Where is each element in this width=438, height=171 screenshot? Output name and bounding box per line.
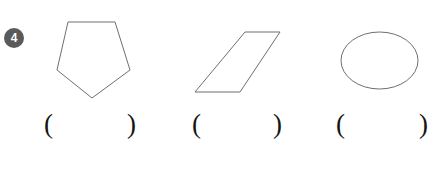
paren-close-1: )	[127, 111, 136, 138]
paren-close-2: )	[273, 111, 282, 138]
ellipse-shape	[341, 32, 418, 89]
parallelogram-shape	[195, 32, 280, 92]
answer-blank-ellipse[interactable]: ( )	[336, 108, 428, 140]
pentagon-shape	[57, 22, 130, 98]
worksheet-exercise: 4 ( ) ( ) ( )	[0, 0, 438, 171]
question-number-badge: 4	[4, 28, 24, 48]
paren-open-3: (	[336, 111, 345, 138]
answer-blank-parallelogram[interactable]: ( )	[192, 108, 282, 140]
paren-close-3: )	[419, 111, 428, 138]
paren-open-1: (	[44, 111, 53, 138]
shape-figures	[0, 0, 438, 171]
paren-open-2: (	[192, 111, 201, 138]
answer-blank-pentagon[interactable]: ( )	[44, 108, 136, 140]
